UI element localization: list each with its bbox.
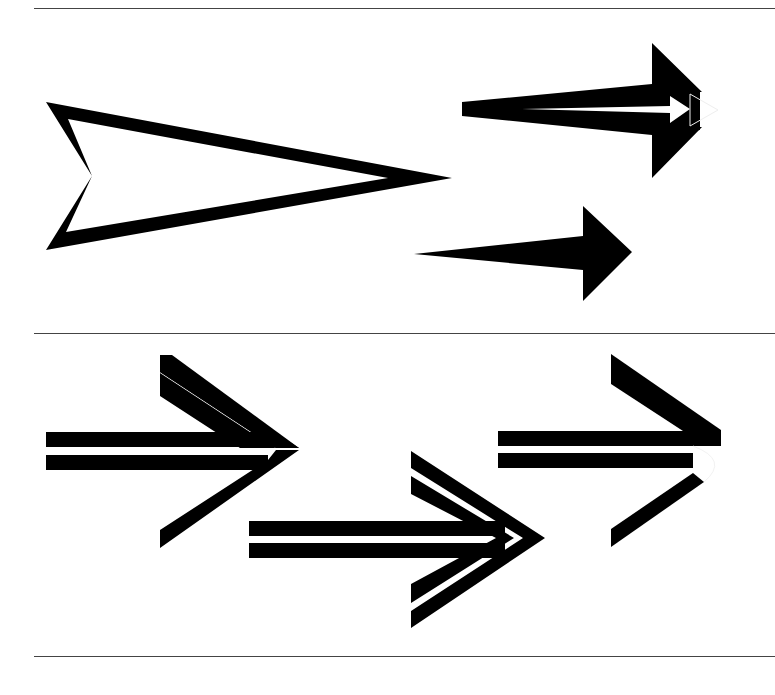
double-line-broken-arrow-icon xyxy=(498,354,721,547)
panel-1 xyxy=(46,43,718,301)
double-line-open-arrow-icon xyxy=(46,355,299,548)
panel-2 xyxy=(46,354,721,628)
tapered-solid-arrow-icon xyxy=(414,206,632,301)
arrow-illustrations xyxy=(0,0,775,695)
outline-chevron-arrow-icon xyxy=(46,102,452,250)
layered-triple-arrow-icon xyxy=(462,43,718,178)
double-line-double-chevron-arrow-icon xyxy=(249,451,545,628)
